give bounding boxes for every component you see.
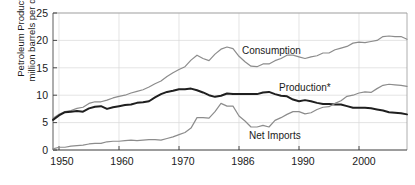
series-line-production <box>53 89 407 120</box>
x-tick-1950: 1950 <box>50 155 73 167</box>
x-tick-1980: 1986 <box>231 155 254 167</box>
x-tick-1970: 1970 <box>171 155 194 167</box>
series-label-production: Production* <box>279 82 331 93</box>
x-tick-1990: 1990 <box>291 155 314 167</box>
series-label-net-imports: Net Imports <box>249 130 301 141</box>
x-tick-2000: 2000 <box>352 155 375 167</box>
x-tick-1960: 1960 <box>110 155 133 167</box>
petroleum-products-chart: Petroleum Products million barrels per d… <box>0 0 415 185</box>
series-label-consumption: Consumption <box>242 45 301 56</box>
